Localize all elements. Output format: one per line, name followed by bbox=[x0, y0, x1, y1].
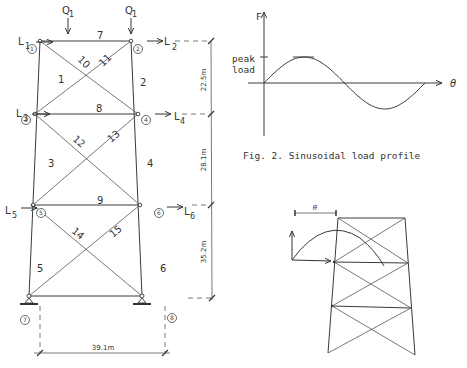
dim-h3: 35.2m bbox=[200, 241, 208, 264]
member-label-2: 2 bbox=[140, 77, 146, 88]
peak-label-line2: load bbox=[232, 64, 255, 75]
svg-text:5: 5 bbox=[39, 209, 43, 216]
svg-text:1: 1 bbox=[69, 10, 74, 19]
member-15 bbox=[29, 205, 140, 296]
load-l6: L 6 bbox=[167, 206, 195, 221]
joint-5 bbox=[31, 203, 35, 207]
member-label-8: 8 bbox=[96, 103, 102, 114]
svg-text:1: 1 bbox=[25, 42, 30, 51]
member-label-7: 7 bbox=[97, 30, 103, 41]
member-10 bbox=[40, 41, 138, 114]
node-label-4: 4 bbox=[142, 116, 151, 125]
y-axis-label: F bbox=[256, 11, 262, 22]
joint-2 bbox=[129, 39, 133, 43]
member-label-5: 5 bbox=[37, 263, 43, 274]
node-label-5: 5 bbox=[37, 209, 46, 218]
dim-h2: 28.1m bbox=[200, 149, 208, 172]
svg-text:8: 8 bbox=[170, 314, 174, 321]
dim-base: 39.1m bbox=[92, 344, 115, 352]
svg-text:6: 6 bbox=[190, 212, 195, 221]
svg-text:4: 4 bbox=[144, 116, 148, 123]
svg-text:2: 2 bbox=[136, 45, 140, 52]
pin-support-right bbox=[133, 298, 151, 304]
pin-support-left bbox=[20, 298, 38, 304]
truss-tower: 1 2 3 4 5 6 7 8 1 2 3 4 5 6 7 8 9 10 11 … bbox=[5, 5, 215, 356]
joint-4 bbox=[136, 112, 140, 116]
member-label-4: 4 bbox=[147, 158, 153, 169]
svg-text:7: 7 bbox=[23, 316, 27, 323]
load-l4: L 4 bbox=[155, 111, 185, 126]
inset-right-leg bbox=[405, 218, 415, 355]
theta-label: θ bbox=[313, 204, 318, 212]
node-label-8: 8 bbox=[168, 314, 177, 323]
svg-text:L: L bbox=[18, 36, 24, 47]
node-label-7: 7 bbox=[21, 316, 30, 325]
horizontal-axis-arrow bbox=[292, 260, 331, 261]
member-1-3-5-left-leg bbox=[29, 41, 40, 296]
inset-left-leg bbox=[328, 218, 338, 353]
member-14 bbox=[33, 205, 142, 296]
member-11 bbox=[35, 41, 131, 114]
figure-canvas: 1 2 3 4 5 6 7 8 1 2 3 4 5 6 7 8 9 10 11 … bbox=[0, 0, 467, 368]
member-label-11: 11 bbox=[97, 52, 114, 69]
member-label-1: 1 bbox=[58, 74, 64, 85]
chart-caption: Fig. 2. Sinusoidal load profile bbox=[243, 150, 421, 161]
member-label-14: 14 bbox=[70, 225, 87, 242]
height-dimension: 22.5m 28.1m 35.2m bbox=[175, 38, 215, 301]
joint-6 bbox=[138, 203, 142, 207]
member-label-3: 3 bbox=[48, 158, 54, 169]
x-axis-label: θ bbox=[450, 78, 456, 89]
node-label-6: 6 bbox=[155, 209, 164, 218]
peak-label-line1: peak bbox=[232, 53, 255, 64]
svg-text:6: 6 bbox=[157, 209, 161, 216]
member-label-9: 9 bbox=[97, 195, 103, 206]
member-label-10: 10 bbox=[76, 54, 93, 71]
load-q1-right: Q 1 bbox=[125, 5, 137, 34]
sinusoidal-load-chart: F θ peak load Fig. 2. Sinusoidal load pr… bbox=[232, 11, 456, 161]
tower-sway-inset: θ bbox=[292, 204, 415, 355]
load-q1-left: Q 1 bbox=[62, 5, 74, 34]
member-label-15: 15 bbox=[107, 223, 124, 240]
node-label-2: 2 bbox=[134, 45, 143, 54]
load-l3: L 3 bbox=[16, 108, 50, 123]
svg-text:L: L bbox=[5, 205, 11, 216]
svg-text:1: 1 bbox=[30, 45, 34, 52]
svg-text:1: 1 bbox=[132, 10, 137, 19]
svg-text:L: L bbox=[164, 36, 170, 47]
svg-text:3: 3 bbox=[23, 114, 28, 123]
svg-text:5: 5 bbox=[12, 211, 17, 220]
dim-h1: 22.5m bbox=[200, 69, 208, 92]
svg-text:4: 4 bbox=[180, 117, 185, 126]
load-l2: L 2 bbox=[147, 36, 177, 52]
svg-text:2: 2 bbox=[172, 43, 177, 52]
member-label-6: 6 bbox=[160, 263, 166, 274]
base-dimension: 39.1m bbox=[34, 306, 170, 356]
svg-text:L: L bbox=[16, 108, 22, 119]
